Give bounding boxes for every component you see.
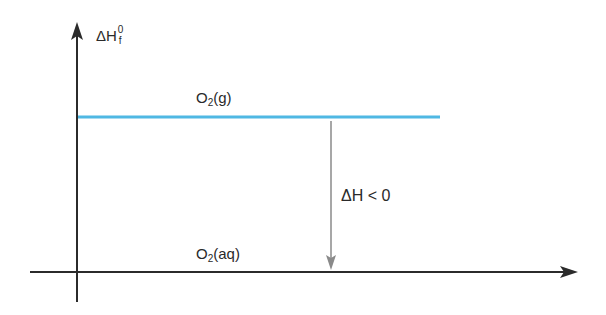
upper-state: (g) (213, 89, 231, 106)
lower-state: (aq) (213, 245, 240, 262)
y-axis-subscript: f (119, 36, 122, 46)
lower-level-label: O2(aq) (196, 246, 240, 261)
y-axis-superscript: 0 (118, 25, 124, 35)
x-axis (30, 266, 578, 278)
enthalpy-change-label: ΔH < 0 (341, 188, 390, 204)
enthalpy-change-arrow (326, 121, 336, 270)
enthalpy-diagram-canvas (0, 0, 606, 315)
lower-species: O (196, 245, 208, 262)
y-axis-label: ΔH0f (96, 28, 125, 43)
upper-level-label: O2(g) (196, 90, 232, 105)
upper-species: O (196, 89, 208, 106)
y-axis-indices: 0f (117, 28, 125, 43)
y-axis-symbol: ΔH (96, 27, 117, 44)
y-axis (71, 22, 83, 302)
